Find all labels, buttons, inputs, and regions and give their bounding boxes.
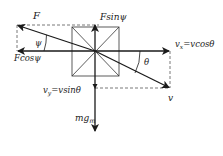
- f-vector: [18, 26, 95, 52]
- force-velocity-diagram: F Fsinψ Fcosψ ψ θ vx=vcosθ vy=vsinθ v mg…: [0, 0, 223, 156]
- label-f-cos: Fcosψ: [13, 53, 41, 63]
- label-f: F: [32, 10, 41, 21]
- label-f-sin: Fsinψ: [99, 12, 128, 22]
- psi-arc: [44, 35, 47, 51]
- label-psi: ψ: [35, 38, 42, 48]
- label-v: v: [168, 93, 173, 103]
- label-vy: vy=vsinθ: [43, 85, 81, 97]
- theta-arc: [135, 51, 140, 73]
- v-vector: [95, 51, 169, 88]
- label-mg: mgm: [75, 113, 95, 125]
- label-vx: vx=vcosθ: [175, 39, 215, 50]
- label-theta: θ: [144, 57, 149, 67]
